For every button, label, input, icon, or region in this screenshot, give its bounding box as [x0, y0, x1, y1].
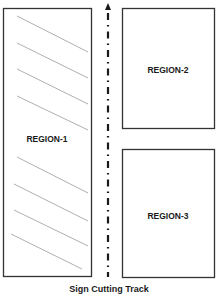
region-1-label: REGION-1	[26, 134, 67, 144]
region-3: REGION-3	[123, 150, 215, 278]
diagram-caption: Sign Cutting Track	[0, 284, 218, 294]
sign-cutting-diagram: REGION-1 REGION-2 REGION-3	[0, 0, 218, 299]
sign-cutting-track	[105, 3, 111, 277]
region-2: REGION-2	[123, 9, 215, 129]
region-3-label: REGION-3	[147, 211, 188, 221]
region-2-label: REGION-2	[147, 65, 188, 75]
region-1: REGION-1	[4, 9, 92, 277]
arrow-up-icon	[105, 3, 111, 10]
